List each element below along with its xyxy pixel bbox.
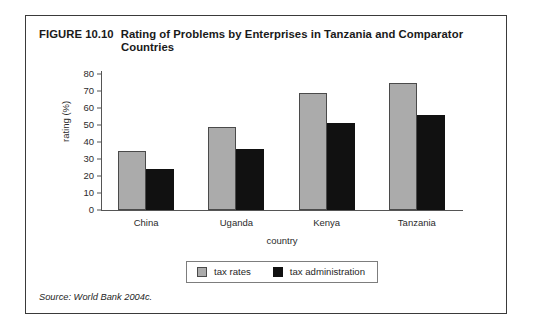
- legend-swatch-tax-rates: [197, 267, 207, 277]
- bar-group: Uganda: [191, 74, 281, 210]
- figure-box: FIGURE 10.10Rating of Problems by Enterp…: [25, 15, 507, 314]
- bar-kenya-tax-administration: [327, 123, 355, 210]
- chart-legend: tax rates tax administration: [186, 261, 378, 283]
- legend-item-tax-rates: tax rates: [197, 266, 251, 277]
- bar-group: Kenya: [282, 74, 372, 210]
- bar-tanzania-tax-administration: [417, 115, 445, 210]
- bar-uganda-tax-administration: [236, 149, 264, 210]
- bar-china-tax-rates: [118, 151, 146, 211]
- bars-container: 01020304050607080 ChinaUgandaKenyaTanzan…: [101, 74, 462, 210]
- x-axis-tick-label: Tanzania: [372, 217, 462, 228]
- chart-plot-region: rating (%) 01020304050607080 ChinaUganda…: [26, 16, 508, 315]
- y-axis-title: rating (%): [60, 101, 71, 142]
- bar-china-tax-administration: [146, 169, 174, 210]
- bar-group: China: [101, 74, 191, 210]
- x-axis-tick-label: Kenya: [282, 217, 372, 228]
- x-axis-tick-label: China: [101, 217, 191, 228]
- legend-label-tax-rates: tax rates: [214, 266, 251, 277]
- bar-tanzania-tax-rates: [389, 83, 417, 211]
- legend-swatch-tax-administration: [273, 267, 283, 277]
- bar-group: Tanzania: [372, 74, 462, 210]
- source-note: Source: World Bank 2004c.: [39, 292, 152, 302]
- legend-label-tax-administration: tax administration: [290, 266, 365, 277]
- x-axis-tick-label: Uganda: [191, 217, 281, 228]
- bar-kenya-tax-rates: [299, 93, 327, 210]
- legend-item-tax-administration: tax administration: [273, 266, 365, 277]
- bar-uganda-tax-rates: [208, 127, 236, 210]
- x-axis-line: [101, 210, 463, 211]
- x-axis-title: country: [101, 235, 463, 246]
